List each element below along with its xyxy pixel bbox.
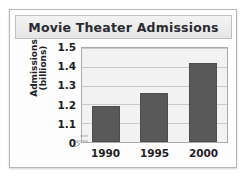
y-axis-tick-label: 1.5	[45, 41, 76, 53]
y-axis-tick-label: 0	[45, 137, 76, 149]
page-title: Movie Theater Admissions	[28, 20, 218, 35]
x-axis-tick-label: 1995	[138, 147, 172, 159]
plot-area	[81, 47, 228, 143]
x-axis-tick-labels: 1990 1995 2000	[81, 145, 228, 161]
bar-2000	[189, 63, 217, 142]
y-axis-tick-labels: 1.5 1.4 1.3 1.2 1.1 0	[45, 47, 76, 143]
chart-figure: Movie Theater Admissions Admissions (bil…	[9, 9, 237, 168]
bar-1995	[140, 93, 168, 142]
chart-plot-region: Admissions (billions) 1.5 1.4 1.3 1.2 1.…	[15, 41, 232, 163]
y-axis-tick-label: 1.2	[45, 99, 76, 111]
y-axis-tick-label: 1.1	[45, 118, 76, 130]
bar-1990	[92, 106, 120, 142]
y-axis-tick-label: 1.3	[45, 79, 76, 91]
bar-series	[82, 48, 227, 142]
x-axis-tick-label: 1990	[89, 147, 123, 159]
x-axis-tick-label: 2000	[187, 147, 221, 159]
y-axis-tick-label: 1.4	[45, 60, 76, 72]
